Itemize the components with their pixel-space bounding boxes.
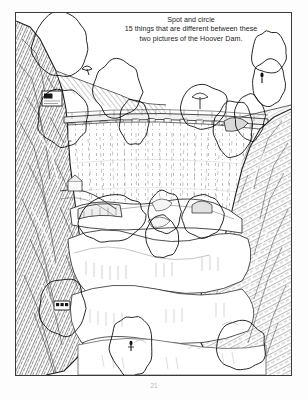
circle-ridge-rock [211, 98, 255, 161]
circle-upper-right-figure [251, 57, 286, 108]
circle-bus-vehicle [38, 276, 88, 339]
puzzle-frame: Spot and circle 15 things that are diffe… [15, 12, 292, 376]
circle-crest-tree [180, 83, 229, 131]
page-number: 21 [0, 382, 308, 389]
circle-top-left-skyline [28, 13, 91, 83]
circle-crest-pillar-left [119, 99, 150, 146]
annotation-circle-layer [16, 13, 291, 375]
circle-bird-figure [91, 55, 146, 122]
circle-rock-mid [148, 190, 181, 234]
circle-rock-mid-lower [146, 215, 179, 258]
circle-lower-figure [107, 314, 155, 375]
circle-crest-pillar-right [233, 92, 267, 144]
circle-sign-board [36, 86, 90, 149]
circle-lower-right-empty [216, 318, 268, 372]
circle-cave-right [181, 193, 226, 241]
page-canvas: Spot and circle 15 things that are diffe… [0, 0, 308, 400]
circle-boat-left [76, 190, 148, 246]
